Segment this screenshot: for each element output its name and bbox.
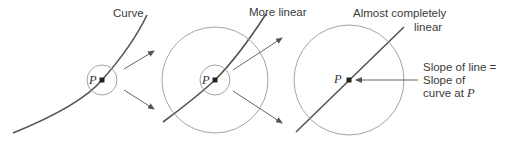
zoom-arrow-lower	[124, 90, 154, 109]
zoom-arrow-upper	[124, 51, 154, 69]
more-linear-label: More linear	[249, 6, 307, 18]
panel-1: P Curve	[13, 7, 154, 133]
slope-annotation-line3-var: P	[466, 86, 475, 100]
slope-annotation-line2: Slope of	[423, 74, 466, 86]
slope-annotation-line3-prefix: curve at	[423, 87, 467, 99]
point-p-label: P	[333, 72, 342, 86]
point-p	[347, 78, 352, 83]
almost-linear-label-line1: Almost completely	[353, 7, 447, 19]
almost-linear-label-line2: linear	[414, 21, 442, 33]
curve-label: Curve	[113, 7, 144, 19]
point-p-label: P	[201, 73, 210, 87]
point-p-label: P	[88, 73, 97, 87]
panel-3: P Almost completely linear Slope of line…	[294, 7, 496, 135]
curve	[163, 14, 266, 122]
slope-annotation-line3: curve at P	[423, 86, 475, 100]
zoom-arrow-lower	[233, 91, 282, 123]
slope-annotation-line1: Slope of line =	[423, 61, 496, 73]
point-p	[213, 78, 218, 83]
zoom-arrow-upper	[233, 38, 282, 70]
linearization-diagram: P Curve P More linear P Almost completel…	[0, 0, 508, 141]
point-p	[100, 78, 105, 83]
panel-2: P More linear	[162, 6, 307, 133]
curve	[13, 15, 147, 133]
